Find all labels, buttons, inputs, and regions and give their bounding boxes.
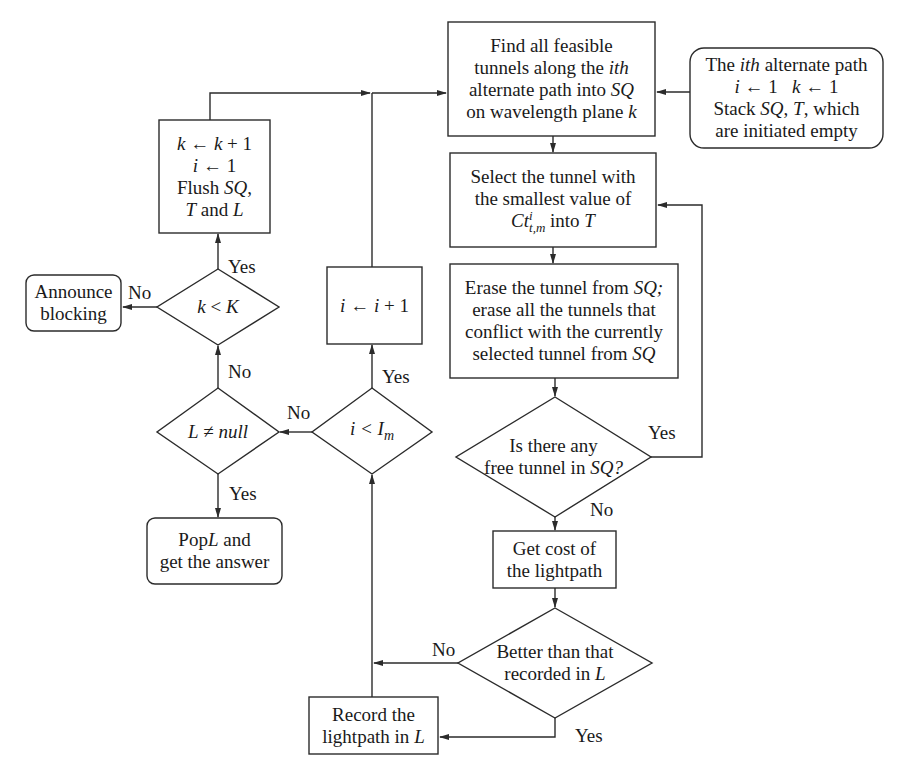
k-check-decision: k < K [157, 293, 279, 321]
get-cost-line-1: Get cost of [513, 538, 596, 560]
get-cost-node: Get cost of the lightpath [493, 531, 616, 588]
select-tunnel-formula: Ctit,m into T [511, 210, 595, 235]
l-check-text: L ≠ null [188, 421, 248, 443]
erase-tunnel-node: Erase the tunnel from SQ; erase all the … [450, 264, 678, 378]
i-increment-text: i ← i + 1 [340, 295, 409, 317]
l-check-decision: L ≠ null [157, 418, 279, 446]
free-tunnel-decision: Is there any free tunnel in SQ? [456, 427, 651, 487]
better-decision: Better than that recorded in L [458, 633, 652, 693]
k-increment-line-1: k ← k + 1 [177, 133, 252, 155]
record-line-2: lightpath in L [322, 726, 424, 748]
k-increment-line-4: T and L [185, 199, 243, 221]
label-better-no: No [432, 640, 455, 660]
pop-line-2: get the answer [160, 551, 270, 573]
find-tunnels-line-3: alternate path into SQ [469, 79, 634, 101]
label-l-no: No [228, 362, 251, 382]
find-tunnels-line-2: tunnels along the ith [474, 57, 629, 79]
k-check-text: k < K [197, 296, 238, 318]
find-tunnels-node: Find all feasible tunnels along the ith … [448, 22, 655, 136]
select-tunnel-line-2: the smallest value of [475, 188, 632, 210]
find-tunnels-line-1: Find all feasible [490, 35, 612, 57]
label-free-no: No [590, 500, 613, 520]
start-line-1: The ith alternate path [706, 54, 868, 76]
start-line-3: Stack SQ, T, which [713, 98, 859, 120]
k-increment-line-3: Flush SQ, [177, 177, 252, 199]
select-tunnel-node: Select the tunnel with the smallest valu… [450, 153, 656, 247]
blocking-line-2: blocking [40, 303, 107, 325]
label-l-yes: Yes [229, 484, 257, 504]
free-tunnel-line-2: free tunnel in SQ? [484, 457, 623, 479]
k-increment-node: k ← k + 1 i ← 1 Flush SQ, T and L [159, 120, 270, 233]
i-increment-node: i ← i + 1 [327, 267, 422, 344]
start-line-4: are initiated empty [715, 120, 857, 142]
better-line-2: recorded in L [504, 663, 605, 685]
label-k-no: No [128, 283, 151, 303]
i-check-formula: i < Im [350, 418, 394, 447]
pop-line-1: PopL and [178, 529, 250, 551]
free-tunnel-line-1: Is there any [509, 435, 598, 457]
blocking-line-1: Announce [34, 281, 112, 303]
blocking-node: Announce blocking [26, 275, 121, 331]
erase-line-1: Erase the tunnel from SQ; [465, 277, 663, 299]
i-check-decision: i < Im [312, 418, 432, 446]
better-line-1: Better than that [496, 641, 613, 663]
erase-line-3: conflict with the currently [465, 321, 663, 343]
label-i-no: No [287, 403, 310, 423]
erase-line-4: selected tunnel from SQ [472, 343, 655, 365]
label-i-yes: Yes [382, 367, 410, 387]
select-tunnel-line-1: Select the tunnel with [470, 166, 635, 188]
k-increment-line-2: i ← 1 [193, 155, 236, 177]
get-cost-line-2: the lightpath [507, 560, 603, 582]
record-node: Record the lightpath in L [309, 697, 438, 754]
label-free-yes: Yes [648, 423, 676, 443]
start-line-2: i ← 1 k ← 1 [735, 76, 839, 98]
pop-node: PopL and get the answer [147, 518, 282, 584]
erase-line-2: erase all the tunnels that [472, 299, 656, 321]
flowchart-canvas: The ith alternate path i ← 1 k ← 1 Stack… [0, 0, 909, 779]
label-k-yes: Yes [228, 257, 256, 277]
start-node: The ith alternate path i ← 1 k ← 1 Stack… [690, 48, 883, 148]
label-better-yes: Yes [575, 726, 603, 746]
find-tunnels-line-4: on wavelength plane k [466, 101, 636, 123]
record-line-1: Record the [332, 704, 415, 726]
